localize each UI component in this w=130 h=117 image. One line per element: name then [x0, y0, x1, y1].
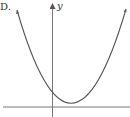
right-arrow-icon — [124, 9, 127, 12]
parabola-graph — [0, 0, 130, 117]
parabola-curve — [17, 9, 126, 103]
